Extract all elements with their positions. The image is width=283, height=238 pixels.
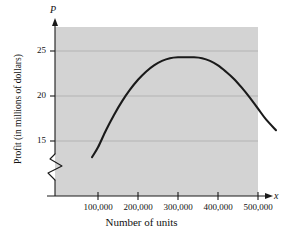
profit-chart-figure: 25 20 15 100,000 200,000 300,000 400,000… xyxy=(0,0,283,238)
y-axis-title: Profit (in millions of dollars) xyxy=(13,34,23,184)
y-axis-ticks xyxy=(50,51,55,141)
y-tick-label-20: 20 xyxy=(22,91,46,100)
y-tick-label-15: 15 xyxy=(22,136,46,145)
plot-area-background xyxy=(55,27,258,196)
y-axis-variable-label: P xyxy=(50,5,56,15)
x-axis-arrowhead xyxy=(265,193,273,199)
x-axis-title: Number of units xyxy=(0,216,283,228)
y-tick-label-25: 25 xyxy=(22,46,46,55)
y-axis-arrowhead xyxy=(52,18,58,26)
x-axis-variable-label: x xyxy=(274,191,278,201)
x-tick-label-500000: 500,000 xyxy=(232,203,283,212)
